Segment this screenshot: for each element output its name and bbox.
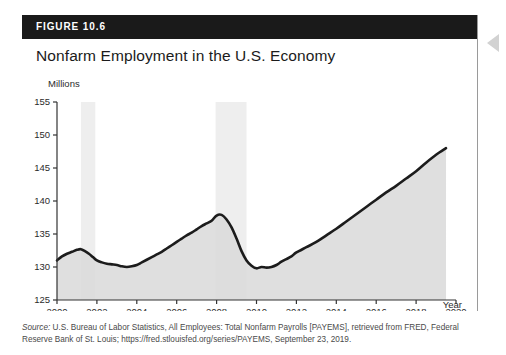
svg-text:135: 135 xyxy=(34,228,50,239)
svg-text:2010: 2010 xyxy=(246,306,267,312)
svg-text:155: 155 xyxy=(34,96,50,107)
svg-text:2012: 2012 xyxy=(286,306,307,312)
source-note: Source: U.S. Bureau of Labor Statistics,… xyxy=(22,322,474,345)
svg-text:2000: 2000 xyxy=(46,306,67,312)
svg-text:125: 125 xyxy=(34,294,50,305)
svg-text:2008: 2008 xyxy=(206,306,227,312)
chart-plot-area: 1251301351401451501552000200220042006200… xyxy=(22,15,478,311)
svg-text:2006: 2006 xyxy=(166,306,187,312)
svg-text:2014: 2014 xyxy=(326,306,347,312)
source-text: U.S. Bureau of Labor Statistics, All Emp… xyxy=(22,323,459,344)
source-prefix: Source: xyxy=(22,323,50,332)
card-right-rule xyxy=(477,15,478,311)
svg-text:2002: 2002 xyxy=(86,306,107,312)
employment-line-chart: 1251301351401451501552000200220042006200… xyxy=(22,15,478,311)
svg-text:150: 150 xyxy=(34,129,50,140)
figure-page: FIGURE 10.6 Nonfarm Employment in the U.… xyxy=(0,0,506,355)
svg-text:2018: 2018 xyxy=(406,306,427,312)
svg-text:140: 140 xyxy=(34,195,50,206)
svg-text:2004: 2004 xyxy=(126,306,147,312)
svg-text:130: 130 xyxy=(34,261,50,272)
figure-card: FIGURE 10.6 Nonfarm Employment in the U.… xyxy=(22,15,478,311)
svg-text:2016: 2016 xyxy=(366,306,387,312)
x-axis-label: Year xyxy=(443,299,462,310)
svg-text:145: 145 xyxy=(34,162,50,173)
left-arrow-icon xyxy=(486,32,502,54)
